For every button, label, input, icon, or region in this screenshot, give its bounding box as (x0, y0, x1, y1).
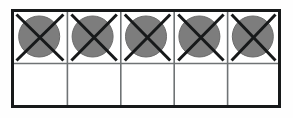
cell-r2-c5 (228, 64, 280, 107)
cell-r2-c3 (121, 64, 174, 107)
cell-r2-c4 (174, 64, 227, 107)
cell-r2-c1 (13, 64, 68, 107)
cell-r2-c2 (67, 64, 120, 107)
grid-diagram (11, 9, 281, 108)
crossed-out-circles-grid (11, 9, 281, 108)
figure-canvas (0, 0, 293, 118)
empty-cell-group (13, 64, 280, 107)
